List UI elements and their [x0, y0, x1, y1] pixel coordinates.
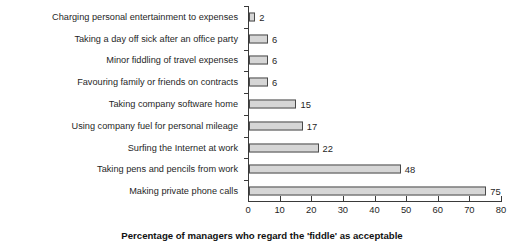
x-axis-tick	[280, 196, 281, 202]
bar-value-label: 6	[272, 77, 277, 88]
x-axis-tick	[501, 196, 502, 202]
bar-row: Using company fuel for personal mileage1…	[0, 115, 524, 137]
bar-value-label: 17	[307, 120, 317, 131]
bar-row: Charging personal entertainment to expen…	[0, 6, 524, 28]
bar-value-label: 6	[272, 33, 277, 44]
category-label: Favouring family or friends on contracts	[77, 77, 238, 88]
x-axis-title: Percentage of managers who regard the 'f…	[0, 230, 524, 241]
bar	[249, 99, 296, 108]
bar-row: Favouring family or friends on contracts…	[0, 71, 524, 93]
y-axis-tick	[244, 6, 248, 7]
category-label: Taking pens and pencils from work	[97, 164, 238, 175]
x-axis-tick-label: 40	[369, 204, 379, 215]
bar	[249, 12, 255, 21]
y-axis-tick	[244, 28, 248, 29]
category-label: Using company fuel for personal mileage	[72, 120, 238, 131]
bar-chart: Charging personal entertainment to expen…	[0, 0, 524, 250]
y-axis-tick	[244, 93, 248, 94]
y-axis-tick	[244, 115, 248, 116]
bar-row: Minor fiddling of travel expenses6	[0, 50, 524, 72]
bar	[249, 78, 268, 87]
y-axis-tick	[244, 50, 248, 51]
bar-value-label: 75	[490, 186, 500, 197]
bar	[249, 121, 303, 130]
x-axis-tick-label: 30	[338, 204, 348, 215]
category-label: Surfing the Internet at work	[128, 142, 238, 153]
x-axis-tick	[311, 196, 312, 202]
bar-row: Taking pens and pencils from work48	[0, 158, 524, 180]
bar	[249, 187, 486, 196]
bar-row: Taking a day off sick after an office pa…	[0, 28, 524, 50]
bar	[249, 34, 268, 43]
bar-row: Making private phone calls75	[0, 180, 524, 202]
category-label: Minor fiddling of travel expenses	[106, 55, 238, 66]
category-label: Taking company software home	[109, 98, 238, 109]
bar	[249, 56, 268, 65]
x-axis-tick-label: 60	[433, 204, 443, 215]
x-axis-tick-label: 0	[245, 204, 250, 215]
x-axis-tick	[375, 196, 376, 202]
bar-value-label: 15	[300, 98, 310, 109]
x-axis-tick	[406, 196, 407, 202]
category-label: Making private phone calls	[129, 186, 238, 197]
y-axis-tick	[244, 71, 248, 72]
bar-row: Surfing the Internet at work22	[0, 137, 524, 159]
category-label: Taking a day off sick after an office pa…	[74, 33, 238, 44]
x-axis-tick-label: 20	[306, 204, 316, 215]
x-axis-tick-label: 50	[401, 204, 411, 215]
x-axis-tick	[343, 196, 344, 202]
bar-row: Taking company software home15	[0, 93, 524, 115]
x-axis-tick-label: 10	[274, 204, 284, 215]
x-axis-tick-label: 80	[496, 204, 506, 215]
category-label: Charging personal entertainment to expen…	[52, 11, 238, 22]
bar	[249, 165, 401, 174]
x-axis-tick	[469, 196, 470, 202]
bar-value-label: 48	[405, 164, 415, 175]
bar-value-label: 6	[272, 55, 277, 66]
y-axis-tick	[244, 180, 248, 181]
bar-value-label: 2	[259, 11, 264, 22]
bar-value-label: 22	[323, 142, 333, 153]
bar	[249, 143, 319, 152]
x-axis-tick-label: 70	[464, 204, 474, 215]
y-axis-tick	[244, 137, 248, 138]
x-axis-tick	[248, 196, 249, 202]
y-axis-tick	[244, 158, 248, 159]
x-axis-tick	[438, 196, 439, 202]
